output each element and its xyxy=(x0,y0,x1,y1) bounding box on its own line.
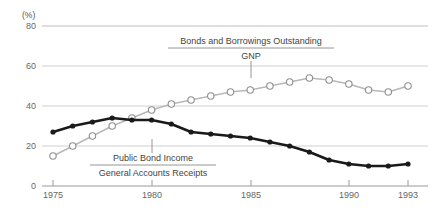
data-point xyxy=(386,163,391,168)
annotation-upper-numerator: Bonds and Borrowings Outstanding xyxy=(180,36,322,46)
data-point xyxy=(267,139,272,144)
annotation-upper-denominator: GNP xyxy=(241,51,261,61)
data-point xyxy=(326,77,332,83)
data-point xyxy=(346,161,351,166)
data-point xyxy=(248,135,253,140)
x-axis xyxy=(42,180,428,186)
chart-container: (%) 80 60 40 20 0 1975 1980 1985 1990 19… xyxy=(0,0,443,216)
data-point xyxy=(228,133,233,138)
y-tick-20: 20 xyxy=(26,141,36,151)
series-line xyxy=(53,118,408,166)
data-point xyxy=(149,117,154,122)
data-point xyxy=(385,89,391,95)
data-point xyxy=(70,143,76,149)
x-tick-1975: 1975 xyxy=(43,190,63,200)
data-point xyxy=(50,153,56,159)
data-point xyxy=(90,119,95,124)
data-point xyxy=(306,75,312,81)
data-point xyxy=(247,87,253,93)
data-point xyxy=(287,143,292,148)
data-point xyxy=(208,131,213,136)
annotation-lower: Public Bond Income General Accounts Rece… xyxy=(90,153,216,178)
x-tick-1990: 1990 xyxy=(339,190,359,200)
y-tick-60: 60 xyxy=(26,61,36,71)
data-point xyxy=(208,93,214,99)
data-point xyxy=(405,83,411,89)
data-point xyxy=(286,79,292,85)
data-point xyxy=(188,97,194,103)
y-tick-0: 0 xyxy=(31,181,36,191)
data-point xyxy=(405,161,410,166)
data-point xyxy=(129,117,134,122)
y-axis-unit-label: (%) xyxy=(22,10,35,20)
data-point xyxy=(169,121,174,126)
data-point xyxy=(267,83,273,89)
data-point xyxy=(346,81,352,87)
x-tick-1993: 1993 xyxy=(398,190,418,200)
y-tick-80: 80 xyxy=(26,21,36,31)
data-point xyxy=(50,129,55,134)
annotation-leader-lines xyxy=(152,61,251,153)
annotation-lower-numerator: Public Bond Income xyxy=(113,153,193,163)
x-tick-1980: 1980 xyxy=(142,190,162,200)
data-point xyxy=(366,163,371,168)
data-point xyxy=(110,115,115,120)
data-point xyxy=(227,89,233,95)
data-point xyxy=(188,129,193,134)
x-tick-1985: 1985 xyxy=(241,190,261,200)
series-layer xyxy=(50,75,411,169)
data-point xyxy=(89,133,95,139)
data-point xyxy=(70,123,75,128)
data-point xyxy=(327,157,332,162)
data-point xyxy=(307,149,312,154)
data-point xyxy=(365,87,371,93)
series-public-bond-income xyxy=(50,115,410,168)
series-bonds-gnp xyxy=(50,75,411,159)
data-point xyxy=(109,123,115,129)
line-chart-svg: (%) 80 60 40 20 0 1975 1980 1985 1990 19… xyxy=(0,0,443,216)
data-point xyxy=(168,101,174,107)
annotation-lower-denominator: General Accounts Receipts xyxy=(99,168,208,178)
annotation-upper: Bonds and Borrowings Outstanding GNP xyxy=(168,36,334,61)
y-tick-40: 40 xyxy=(26,101,36,111)
data-point xyxy=(148,107,154,113)
